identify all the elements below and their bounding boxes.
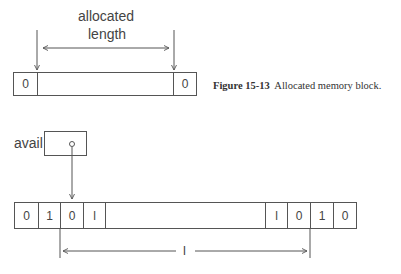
block-cell-body	[105, 202, 266, 229]
caption-text: Allocated memory block.	[274, 80, 381, 91]
figure-caption: Figure 15-13 Allocated memory block.	[213, 80, 381, 91]
block-cell: 0	[287, 202, 311, 229]
block-cell: 1	[38, 202, 61, 229]
block-cell: 0	[333, 202, 357, 229]
block-cell-tag-left: 0	[13, 72, 38, 96]
block-cell-tag-right: 0	[173, 72, 197, 96]
block-cell: 1	[310, 202, 334, 229]
block-cell: l	[83, 202, 106, 229]
block-cell: l	[265, 202, 288, 229]
caption-number: Figure 15-13	[213, 80, 270, 91]
block-cell: 0	[60, 202, 84, 229]
length-label: length	[88, 26, 126, 42]
avail-pointer-box	[44, 131, 87, 156]
avail-label: avail	[14, 135, 43, 151]
block-cell: 0	[14, 202, 39, 229]
length-l-label: l	[183, 243, 186, 258]
allocated-label: allocated	[78, 8, 134, 24]
block-cell-body	[37, 72, 174, 96]
